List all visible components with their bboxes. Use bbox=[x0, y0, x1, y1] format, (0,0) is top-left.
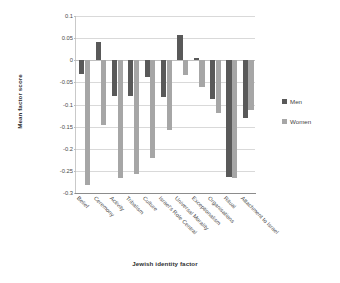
x-axis-tick-label: Attachment to Israel bbox=[240, 195, 280, 235]
legend: MenWomen bbox=[282, 98, 338, 138]
bar-women bbox=[85, 60, 90, 185]
legend-item-label: Women bbox=[290, 118, 311, 125]
bar-women bbox=[232, 60, 237, 177]
bar-men bbox=[96, 42, 101, 61]
x-axis-title: Jewish identity factor bbox=[60, 260, 270, 267]
bar-men bbox=[161, 60, 166, 96]
y-axis-tick-label: 0.05 bbox=[62, 35, 73, 41]
y-axis-tick-label: 0 bbox=[70, 57, 73, 63]
bar-group bbox=[141, 16, 157, 193]
x-axis-tick-label: Belief bbox=[76, 195, 90, 209]
bar-women bbox=[248, 60, 253, 110]
y-axis-tick-label: -0.3 bbox=[63, 190, 73, 196]
y-axis-tick-label: -0.15 bbox=[60, 124, 73, 130]
legend-item-men[interactable]: Men bbox=[282, 98, 338, 105]
bar-men bbox=[243, 60, 248, 118]
y-axis-tick-label: -0.25 bbox=[60, 168, 73, 174]
bar-groups bbox=[76, 16, 255, 193]
y-axis-tick-label: -0.1 bbox=[63, 102, 73, 108]
bar-men bbox=[112, 60, 117, 95]
y-axis-tick-label: 0.1 bbox=[65, 13, 73, 19]
bar-group bbox=[92, 16, 108, 193]
bar-women bbox=[118, 60, 123, 177]
legend-item-women[interactable]: Women bbox=[282, 118, 338, 125]
bar-women bbox=[134, 60, 139, 174]
x-axis-line bbox=[75, 193, 256, 194]
bar-group bbox=[109, 16, 125, 193]
bar-women bbox=[183, 60, 188, 75]
bar-women bbox=[216, 60, 221, 113]
bar-women bbox=[101, 60, 106, 125]
bar-women bbox=[199, 60, 204, 87]
bar-men bbox=[210, 60, 215, 99]
bar-chart: Mean factor score 0.10.050-0.05-0.1-0.15… bbox=[0, 0, 340, 283]
bar-group bbox=[158, 16, 174, 193]
x-axis-tick-label: Ritual bbox=[223, 195, 238, 210]
bar-group bbox=[240, 16, 256, 193]
bar-group bbox=[191, 16, 207, 193]
bar-group bbox=[207, 16, 223, 193]
legend-item-label: Men bbox=[290, 98, 302, 105]
bar-men bbox=[226, 60, 231, 176]
legend-swatch-icon bbox=[282, 99, 287, 104]
bar-group bbox=[223, 16, 239, 193]
bar-men bbox=[194, 58, 199, 60]
bar-men bbox=[177, 35, 182, 61]
plot-area: 0.10.050-0.05-0.1-0.15-0.2-0.25-0.3 bbox=[75, 16, 255, 193]
y-axis-title: Mean factor score bbox=[16, 47, 23, 157]
bar-group bbox=[174, 16, 190, 193]
bar-women bbox=[167, 60, 172, 129]
bar-men bbox=[128, 60, 133, 95]
bar-group bbox=[76, 16, 92, 193]
legend-swatch-icon bbox=[282, 119, 287, 124]
bar-men bbox=[79, 60, 84, 74]
bar-men bbox=[145, 60, 150, 77]
bar-women bbox=[150, 60, 155, 158]
y-axis-tick-label: -0.05 bbox=[60, 79, 73, 85]
bar-group bbox=[125, 16, 141, 193]
x-axis-tick-labels: BeliefCeremonyActivityTribalismCultureIs… bbox=[75, 195, 255, 257]
y-axis-tick-label: -0.2 bbox=[63, 146, 73, 152]
